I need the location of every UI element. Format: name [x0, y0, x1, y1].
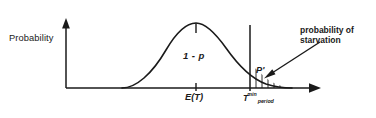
tperiod-subscript: period	[258, 98, 274, 104]
callout-line-1: probability of	[300, 25, 354, 35]
tperiod-superscript: min	[247, 91, 256, 97]
starvation-callout-text: probability ofstarvation	[300, 25, 354, 46]
region-label-one-minus-p: 1 - p	[183, 51, 205, 61]
x-tick-label-min-period: Tminperiod	[243, 94, 274, 103]
y-axis-label: Probability	[9, 33, 54, 43]
x-tick-label-expected-time: E(T)	[185, 92, 203, 102]
callout-line-2: starvation	[300, 35, 341, 45]
starvation-callout-arrow	[264, 42, 320, 79]
region-label-p-prime: P'	[256, 66, 264, 76]
distribution-curve	[122, 23, 292, 88]
y-axis	[62, 18, 70, 88]
probability-distribution-diagram: Probability 1 - p E(T) Tminperiod P' pro…	[0, 0, 376, 118]
